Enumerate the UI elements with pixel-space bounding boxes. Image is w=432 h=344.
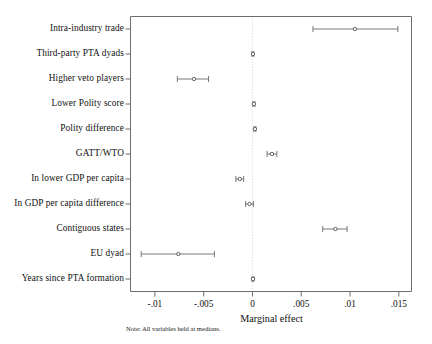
chart-note: Note: All variables held at medians. xyxy=(126,325,221,332)
estimate-marker xyxy=(251,277,254,280)
data-point-group-10 xyxy=(251,276,254,282)
data-point-group-2 xyxy=(177,76,208,82)
x-tick-label-3: .005 xyxy=(293,300,309,309)
x-tick-label-0: -.01 xyxy=(148,300,163,309)
data-point-group-4 xyxy=(253,126,256,132)
data-point-group-0 xyxy=(313,26,398,32)
x-tick-label-4: .01 xyxy=(344,300,356,309)
plot-canvas xyxy=(0,0,432,344)
estimate-marker xyxy=(251,52,254,55)
estimate-marker xyxy=(252,102,255,105)
data-point-group-6 xyxy=(236,176,244,182)
data-point-group-3 xyxy=(252,101,255,107)
data-point-group-9 xyxy=(141,251,214,257)
x-tick-label-2: 0 xyxy=(250,300,255,309)
data-point-group-8 xyxy=(323,226,347,232)
estimate-marker xyxy=(270,152,273,155)
data-point-group-5 xyxy=(267,151,277,157)
estimate-marker xyxy=(238,177,241,180)
estimate-marker xyxy=(177,252,180,255)
estimate-marker xyxy=(334,227,337,230)
estimate-marker xyxy=(253,127,256,130)
estimate-marker xyxy=(248,202,251,205)
x-tick-label-1: -.005 xyxy=(194,300,213,309)
x-tick-label-5: .015 xyxy=(391,300,407,309)
data-point-group-1 xyxy=(251,51,254,57)
x-axis-title: Marginal effect xyxy=(1,313,432,324)
estimate-marker xyxy=(353,27,356,30)
marginal-effect-coefficient-plot: Intra-industry tradeThird-party PTA dyad… xyxy=(0,0,432,344)
estimate-marker xyxy=(192,77,195,80)
